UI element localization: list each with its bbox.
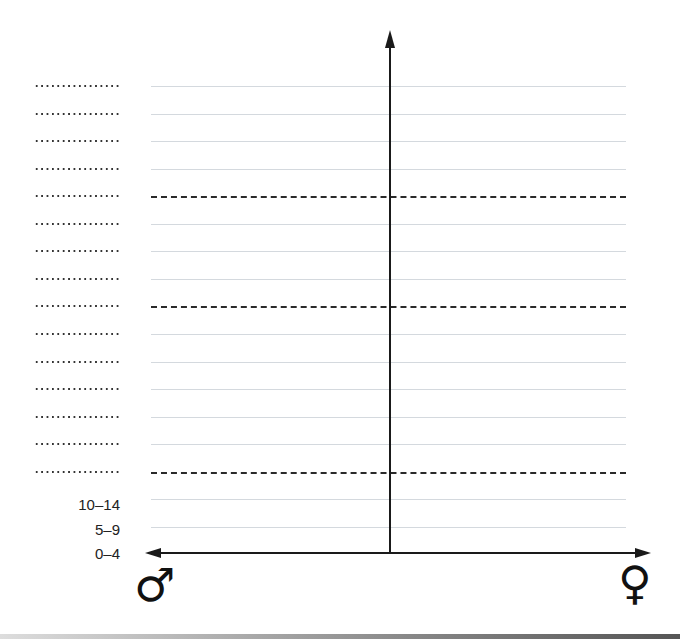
left-arrow-icon bbox=[145, 548, 161, 558]
axes bbox=[0, 0, 680, 639]
up-arrow-icon bbox=[385, 30, 395, 48]
male-symbol-icon: ♂ bbox=[134, 562, 175, 608]
female-symbol-icon: ♀ bbox=[618, 560, 652, 606]
page-edge bbox=[0, 634, 680, 639]
